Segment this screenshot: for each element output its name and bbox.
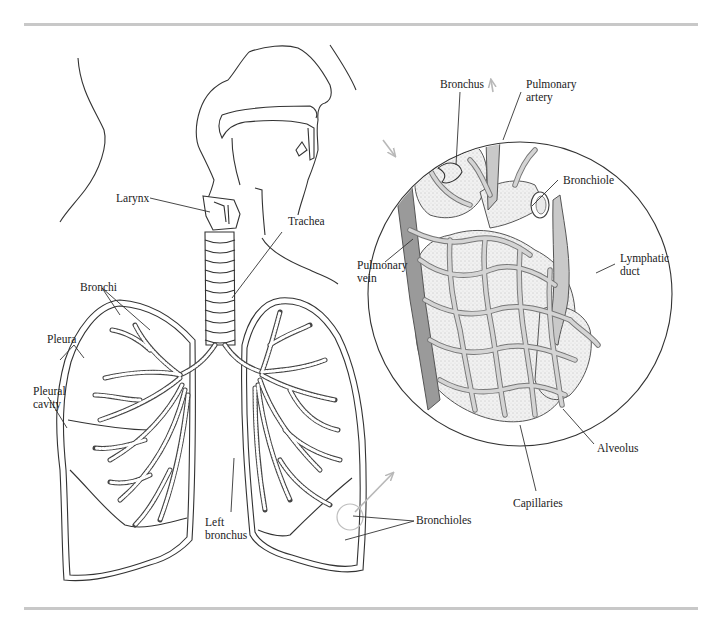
label-trachea: Trachea [288,215,325,228]
magnified-alveolus-view [368,138,672,446]
label-bronchioles: Bronchioles [416,514,472,527]
trachea-structure [205,232,338,345]
right-lung [57,300,196,581]
label-pulmonary-vein: Pulmonary vein [357,259,419,285]
magnify-arrow-upper-left [383,140,395,156]
back-outline [60,58,105,222]
label-bronchi: Bronchi [80,281,117,294]
larynx-structure [203,196,240,230]
label-pleural-cavity: Pleural cavity [33,385,93,411]
label-lymphatic-duct: Lymphatic duct [620,252,680,278]
label-capillaries: Capillaries [513,497,563,510]
label-pleura: Pleura [47,333,76,346]
respiratory-illustration [0,0,705,620]
label-larynx: Larynx [116,192,149,205]
label-bronchiole: Bronchiole [563,174,614,187]
label-bronchus: Bronchus [440,78,484,91]
label-left-bronchus: Left bronchus [205,516,267,542]
magnify-arrow-top [491,80,493,92]
label-alveolus: Alveolus [597,442,639,455]
label-pulmonary-artery: Pulmonary artery [526,78,590,104]
